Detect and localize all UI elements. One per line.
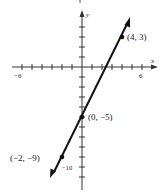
coordinate-plane: y x −6 6 −10 (4, 3) (0, −5) (−2, −9) bbox=[0, 0, 163, 192]
point-label-neg2-neg9: (−2, −9) bbox=[10, 153, 40, 163]
point-label-0-neg5: (0, −5) bbox=[88, 112, 113, 122]
y-tick-label-neg10: −10 bbox=[62, 164, 72, 171]
y-axis-label: y bbox=[85, 11, 90, 19]
plotted-line bbox=[50, 17, 130, 178]
x-tick-label-neg6: −6 bbox=[14, 72, 22, 80]
point-label-4-3: (4, 3) bbox=[127, 32, 147, 42]
point-neg2-neg9 bbox=[60, 155, 65, 160]
x-axis-arrow-icon bbox=[151, 65, 158, 70]
x-axis bbox=[12, 64, 158, 70]
point-4-3 bbox=[120, 35, 125, 40]
y-axis bbox=[79, 10, 85, 190]
point-0-neg5 bbox=[80, 115, 85, 120]
x-tick-label-6: 6 bbox=[139, 72, 143, 80]
x-axis-label: x bbox=[150, 57, 155, 65]
y-axis-arrow-icon bbox=[80, 10, 85, 17]
